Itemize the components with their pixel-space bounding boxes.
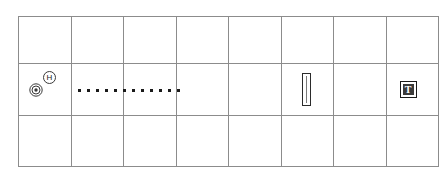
grid-cell-r2c7: [334, 64, 387, 116]
grid-row-3: [19, 116, 439, 167]
tee-label: T: [403, 84, 414, 95]
cell-content-r3c4: [177, 116, 229, 166]
grid-cell-r3c8: [386, 116, 439, 167]
grid-cell-r3c5: [229, 116, 282, 167]
grid-row-1: [19, 17, 439, 64]
cell-content-r3c3: [124, 116, 176, 166]
cell-content-r3c6: [282, 116, 334, 166]
concentric-circles-glyph: [29, 83, 43, 97]
grid-cell-r2c2: [71, 64, 124, 116]
grid-row-2: H: [19, 64, 439, 116]
grid-cell-r3c2: [71, 116, 124, 167]
cell-content-r3c2: [72, 116, 124, 166]
column-core: [306, 76, 307, 103]
grid-cell-r1c2: [71, 17, 124, 64]
grid-body: H: [19, 17, 439, 167]
cell-content-r1c5: [229, 17, 281, 63]
grid-cell-r2c5: [229, 64, 282, 116]
cell-content-r1c1: [19, 17, 71, 63]
grid-cell-r3c6: [281, 116, 334, 167]
grid-cell-r1c4: [176, 17, 229, 64]
path-dot: [78, 89, 81, 92]
circled-h-icon: H: [43, 71, 56, 84]
cell-content-r1c8: [387, 17, 439, 63]
cell-content-r2c2: [72, 64, 124, 115]
vertical-column-icon: [302, 73, 311, 106]
cell-content-r2c1: H: [19, 64, 71, 115]
grid-cell-r2c8: T: [386, 64, 439, 116]
grid-cell-r2c1: H: [19, 64, 72, 116]
cell-content-r2c7: [334, 64, 386, 115]
cell-content-r1c4: [177, 17, 229, 63]
cell-content-r3c5: [229, 116, 281, 166]
helipad-label: H: [47, 73, 53, 82]
cell-content-r2c6: [282, 64, 334, 115]
cell-content-r1c7: [334, 17, 386, 63]
grid-cell-r1c5: [229, 17, 282, 64]
grid-cell-r2c4: [176, 64, 229, 116]
grid-cell-r1c1: [19, 17, 72, 64]
cell-content-r1c3: [124, 17, 176, 63]
concentric-circles-icon: [29, 83, 43, 97]
grid-cell-r1c6: [281, 17, 334, 64]
cell-content-r2c4: [177, 64, 229, 115]
path-dot: [114, 89, 117, 92]
grid-cell-r1c3: [124, 17, 177, 64]
grid-cell-r3c1: [19, 116, 72, 167]
grid-cell-r1c8: [386, 17, 439, 64]
cell-content-r3c1: [19, 116, 71, 166]
diagram-canvas: H: [0, 0, 443, 178]
grid-table: H: [18, 16, 439, 167]
path-dot: [96, 89, 99, 92]
boxed-t-icon: T: [400, 81, 417, 98]
cell-content-r2c5: [229, 64, 281, 115]
grid-cell-r3c4: [176, 116, 229, 167]
cell-content-r3c7: [334, 116, 386, 166]
cell-content-r2c8: T: [387, 64, 439, 115]
cell-content-r3c8: [387, 116, 439, 166]
cell-content-r1c2: [72, 17, 124, 63]
grid-cell-r3c7: [334, 116, 387, 167]
grid-cell-r2c6: [281, 64, 334, 116]
grid-cell-r3c3: [124, 116, 177, 167]
grid-cell-r2c3: [124, 64, 177, 116]
grid-cell-r1c7: [334, 17, 387, 64]
path-dot: [87, 89, 90, 92]
cell-content-r1c6: [282, 17, 334, 63]
cell-content-r2c3: [124, 64, 176, 115]
path-dot: [105, 89, 108, 92]
